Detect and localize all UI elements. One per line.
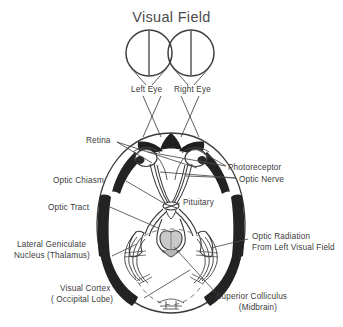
label-optic-radiation-line1: Optic Radiation bbox=[252, 232, 310, 243]
left-eyeball bbox=[135, 150, 157, 167]
label-retina: Retina bbox=[86, 136, 111, 147]
label-left-eye: Left Eye bbox=[131, 85, 162, 96]
label-optic-tract: Optic Tract bbox=[48, 203, 89, 214]
right-pupil bbox=[198, 156, 207, 164]
label-optic-chiasm: Optic Chiasm bbox=[53, 176, 104, 187]
superior-colliculus-midbrain bbox=[160, 231, 182, 257]
diagram-artwork bbox=[0, 0, 343, 327]
label-superior-colliculus-line1: Superior Colliculus bbox=[216, 292, 287, 303]
label-photoreceptor: Photoreceptor bbox=[228, 163, 281, 174]
label-optic-radiation-line2: From Left Visual Field bbox=[252, 243, 335, 254]
label-superior-colliculus-line2: (Midbrain) bbox=[216, 303, 300, 314]
eye-to-head-crossing-lines bbox=[143, 96, 199, 137]
visual-field-circles bbox=[126, 30, 214, 76]
visual-pathway-diagram: Visual Field bbox=[0, 0, 343, 327]
label-lateral-geniculate-line2: Nucleus (Thalamus) bbox=[14, 251, 90, 262]
label-right-eye: Right Eye bbox=[174, 85, 211, 96]
field-to-eye-lines bbox=[131, 68, 209, 85]
label-pituitary: Pituitary bbox=[183, 198, 214, 209]
label-optic-nerve: Optic Nerve bbox=[239, 175, 284, 186]
label-visual-cortex-line1: Visual Cortex bbox=[60, 284, 111, 295]
label-visual-cortex-line2: ( Occipital Lobe) bbox=[51, 295, 113, 306]
right-eyeball bbox=[185, 150, 207, 167]
occipital-notch bbox=[158, 299, 184, 309]
label-lateral-geniculate-line1: Lateral Geniculate bbox=[17, 240, 86, 251]
